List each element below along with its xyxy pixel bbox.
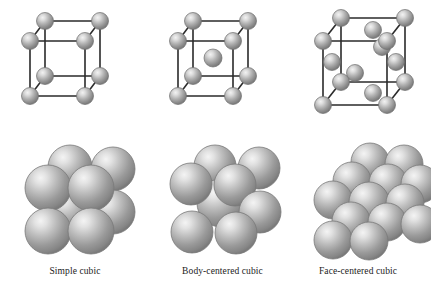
packed-spheres — [25, 145, 135, 254]
packed-spheres — [314, 143, 431, 260]
face-centered-cubic-packing-model — [300, 140, 431, 260]
body-center-atom — [204, 49, 222, 67]
crystal-lattice-figure: Simple cubic Body-centered cubic Face-ce… — [0, 0, 431, 289]
simple-cubic-packing-model — [18, 140, 138, 260]
body-centered-cubic-packing-model — [160, 140, 285, 260]
caption-face-centered-cubic: Face-centered cubic — [285, 266, 431, 276]
packed-spheres — [170, 145, 281, 254]
body-centered-cubic-wireframe — [162, 0, 282, 130]
caption-body-centered-cubic: Body-centered cubic — [140, 266, 305, 276]
simple-cubic-wireframe — [14, 0, 134, 130]
face-centered-cubic-wireframe — [305, 0, 431, 130]
cube-edges — [30, 21, 100, 96]
corner-atoms — [22, 13, 109, 105]
caption-simple-cubic: Simple cubic — [0, 266, 150, 276]
